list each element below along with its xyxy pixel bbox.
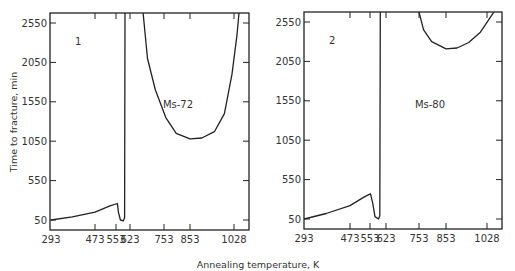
y-tick-label: 1050	[276, 135, 301, 146]
x-axis-title: Annealing temperature, K	[197, 259, 320, 270]
y-tick-label: 1550	[276, 95, 301, 106]
x-tick-label: 753	[154, 234, 173, 245]
y-tick-label: 2550	[276, 17, 301, 28]
panel-2-plot: 2934735536237538531028505501050155020502…	[276, 12, 502, 244]
y-tick-label: 1550	[22, 96, 47, 107]
y-tick-label: 1050	[22, 136, 47, 147]
y-tick-label: 550	[28, 175, 47, 186]
panel-number: 1	[75, 36, 81, 47]
y-tick-label: 2050	[276, 56, 301, 67]
data-curve	[304, 12, 380, 219]
x-tick-label: 473	[340, 233, 359, 244]
x-tick-label: 753	[409, 233, 428, 244]
data-curve	[143, 13, 239, 139]
panel-number: 2	[329, 35, 335, 46]
y-axis-title: Time to fracture, min	[8, 72, 19, 173]
curve-annotation: Ms-80	[415, 99, 445, 110]
y-tick-label: 550	[282, 174, 301, 185]
chart: 2934735536237538531028505501050155020502…	[0, 0, 515, 271]
x-tick-label: 1028	[474, 233, 499, 244]
data-curve	[419, 12, 494, 49]
y-tick-label: 50	[34, 215, 47, 226]
x-tick-label: 853	[436, 233, 455, 244]
y-tick-label: 2050	[22, 57, 47, 68]
x-tick-label: 623	[376, 233, 395, 244]
data-curve	[51, 13, 125, 221]
y-tick-label: 2550	[22, 18, 47, 29]
panel-1-plot: 2934735536237538531028505501050155020502…	[22, 13, 249, 245]
x-tick-label: 853	[180, 234, 199, 245]
x-tick-label: 293	[294, 233, 313, 244]
y-tick-label: 50	[288, 214, 301, 225]
x-tick-label: 473	[85, 234, 104, 245]
x-tick-label: 293	[41, 234, 60, 245]
x-tick-label: 1028	[221, 234, 246, 245]
x-tick-label: 623	[120, 234, 139, 245]
curve-annotation: Ms-72	[163, 99, 193, 110]
